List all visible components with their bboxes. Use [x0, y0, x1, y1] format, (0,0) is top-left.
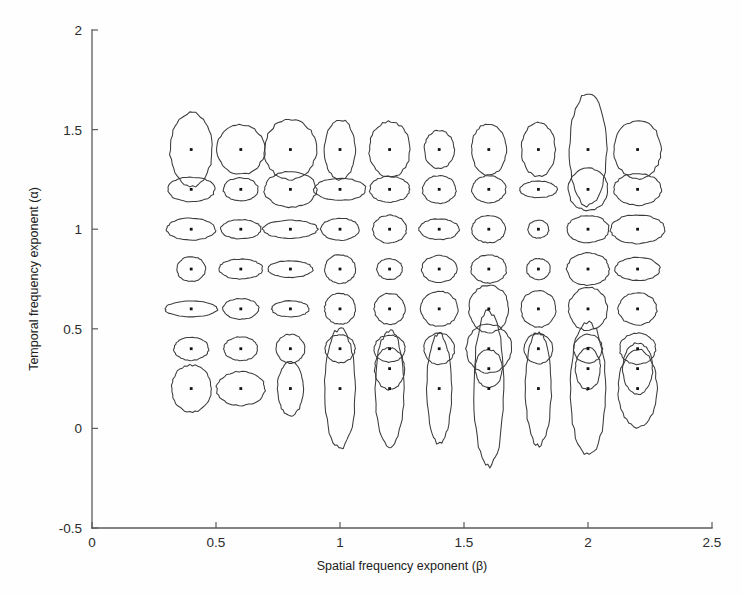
data-point-marker: [487, 268, 490, 271]
y-axis-tick-label: -0.5: [59, 521, 82, 536]
data-point-marker: [289, 347, 292, 350]
data-point-marker: [388, 367, 391, 370]
data-point-marker: [587, 188, 590, 191]
data-point-marker: [636, 268, 639, 271]
data-point-marker: [587, 228, 590, 231]
data-point-marker: [487, 347, 490, 350]
data-point-marker: [487, 188, 490, 191]
x-axis-tick-label: 1: [336, 535, 344, 550]
y-axis-tick-label: 1.5: [63, 123, 82, 138]
data-point-marker: [487, 228, 490, 231]
x-axis-tick-label: 0.5: [207, 535, 226, 550]
y-axis-tick-label: 2: [74, 23, 82, 38]
data-point-marker: [190, 347, 193, 350]
data-point-marker: [339, 188, 342, 191]
data-point-marker: [388, 228, 391, 231]
data-point-marker: [537, 268, 540, 271]
data-point-marker: [388, 268, 391, 271]
data-point-marker: [289, 188, 292, 191]
data-point-marker: [438, 387, 441, 390]
data-point-marker: [190, 387, 193, 390]
data-point-marker: [587, 268, 590, 271]
data-point-marker: [289, 148, 292, 151]
data-point-marker: [239, 148, 242, 151]
data-point-marker: [636, 148, 639, 151]
x-axis-tick-label: 2: [584, 535, 592, 550]
data-point-marker: [487, 148, 490, 151]
data-point-marker: [438, 228, 441, 231]
data-point-marker: [388, 347, 391, 350]
y-axis-tick-label: 0: [74, 421, 82, 436]
y-axis-tick-label: 0.5: [63, 322, 82, 337]
data-point-marker: [339, 347, 342, 350]
data-point-marker: [388, 387, 391, 390]
data-point-marker: [339, 228, 342, 231]
x-axis-tick-label: 2.5: [703, 535, 722, 550]
data-point-marker: [190, 148, 193, 151]
data-point-marker: [636, 347, 639, 350]
center-marker-layer: [190, 148, 639, 390]
data-point-marker: [537, 387, 540, 390]
data-point-marker: [438, 268, 441, 271]
axis-layer: [92, 30, 712, 528]
data-point-marker: [289, 228, 292, 231]
data-point-marker: [339, 387, 342, 390]
data-point-marker: [239, 188, 242, 191]
data-point-marker: [388, 188, 391, 191]
data-point-marker: [537, 307, 540, 310]
x-axis-tick-label: 0: [88, 535, 96, 550]
figure-canvas: 00.511.522.5-0.500.511.52Spatial frequen…: [0, 0, 742, 595]
data-point-marker: [239, 347, 242, 350]
data-point-marker: [537, 148, 540, 151]
data-point-marker: [190, 188, 193, 191]
data-point-marker: [239, 387, 242, 390]
data-point-marker: [487, 307, 490, 310]
x-axis-title: Spatial frequency exponent (β): [317, 559, 487, 573]
data-point-marker: [636, 228, 639, 231]
data-point-marker: [388, 307, 391, 310]
data-point-marker: [339, 148, 342, 151]
data-point-marker: [537, 347, 540, 350]
data-point-marker: [289, 268, 292, 271]
data-point-marker: [438, 307, 441, 310]
data-point-marker: [438, 188, 441, 191]
data-point-marker: [438, 148, 441, 151]
data-point-marker: [239, 228, 242, 231]
data-point-marker: [587, 367, 590, 370]
data-point-marker: [587, 148, 590, 151]
data-point-marker: [487, 367, 490, 370]
data-point-marker: [239, 268, 242, 271]
data-point-marker: [339, 268, 342, 271]
data-point-marker: [537, 228, 540, 231]
data-point-marker: [537, 188, 540, 191]
data-point-marker: [636, 367, 639, 370]
data-point-marker: [190, 268, 193, 271]
data-point-marker: [487, 387, 490, 390]
scatter-plot-svg: 00.511.522.5-0.500.511.52Spatial frequen…: [0, 0, 742, 595]
data-point-marker: [587, 387, 590, 390]
data-point-marker: [587, 307, 590, 310]
data-point-marker: [388, 148, 391, 151]
x-axis-tick-label: 1.5: [455, 535, 474, 550]
data-point-marker: [636, 387, 639, 390]
data-point-marker: [339, 307, 342, 310]
data-point-marker: [587, 347, 590, 350]
data-point-marker: [239, 307, 242, 310]
axis-label-layer: 00.511.522.5-0.500.511.52Spatial frequen…: [27, 23, 721, 573]
data-point-marker: [636, 188, 639, 191]
data-point-marker: [190, 307, 193, 310]
data-point-marker: [438, 347, 441, 350]
data-point-marker: [190, 228, 193, 231]
y-axis-tick-label: 1: [74, 222, 82, 237]
y-axis-title: Temporal frequency exponent (α): [27, 187, 41, 371]
data-point-marker: [289, 387, 292, 390]
data-point-marker: [289, 307, 292, 310]
data-point-marker: [636, 307, 639, 310]
